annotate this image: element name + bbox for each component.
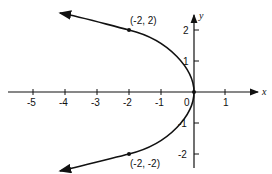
point-marker-upper — [127, 28, 131, 32]
x-tick-label: -4 — [59, 97, 68, 108]
y-tick-label: -1 — [178, 118, 187, 129]
x-tick-label: -2 — [123, 97, 132, 108]
x-axis-label: x — [261, 86, 267, 97]
parabola-graph: -5 -4 -3 -2 -1 0 1 2 1 -1 -2 x y (-2, 2)… — [0, 0, 272, 174]
annotation-upper: (-2, 2) — [130, 15, 157, 26]
point-marker-lower — [127, 152, 131, 156]
y-tick-label: 1 — [183, 56, 189, 67]
origin-label: 0 — [184, 97, 190, 108]
parabola-curve — [60, 13, 194, 92]
y-tick-label: 2 — [183, 25, 189, 36]
origin-marker — [192, 90, 196, 94]
y-tick-label: -2 — [178, 149, 187, 160]
x-tick-label: 1 — [223, 97, 229, 108]
x-tick-label: -5 — [27, 97, 36, 108]
x-tick-label: -3 — [91, 97, 100, 108]
y-axis-label: y — [198, 10, 204, 21]
annotation-lower: (-2, -2) — [130, 158, 160, 169]
x-tick-label: -1 — [155, 97, 164, 108]
